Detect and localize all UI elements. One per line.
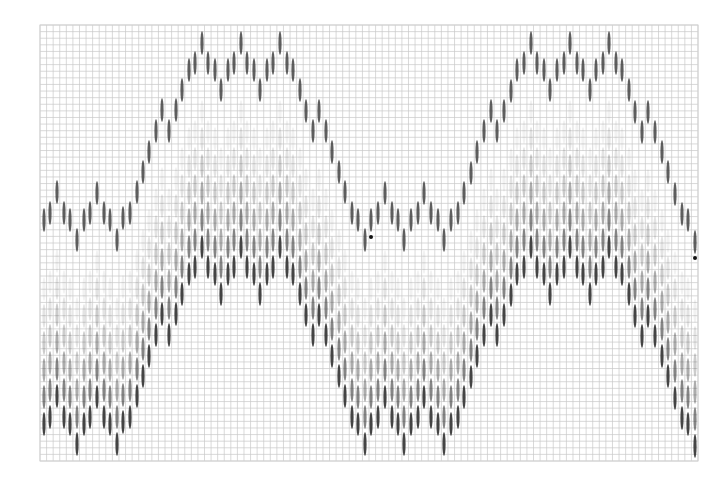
stack-ellipse <box>409 304 412 328</box>
stack-ellipse <box>469 230 472 254</box>
stack-ellipse <box>285 174 288 198</box>
series-ellipse <box>535 51 538 75</box>
stack-ellipse <box>245 255 248 279</box>
stack-ellipse <box>174 194 177 218</box>
stack-ellipse <box>55 384 58 408</box>
stack-ellipse <box>337 337 340 361</box>
stack-ellipse <box>55 303 58 327</box>
stack-ellipse <box>193 120 196 144</box>
stack-ellipse <box>416 324 419 348</box>
series-ellipse <box>226 58 229 82</box>
stack-ellipse <box>620 181 623 205</box>
stack-ellipse <box>108 412 111 436</box>
stack-ellipse <box>462 277 465 301</box>
series-ellipse <box>42 208 45 232</box>
stack-ellipse <box>304 276 307 300</box>
stack-ellipse <box>95 385 98 409</box>
stack-ellipse <box>115 378 118 402</box>
stack-ellipse <box>291 262 294 286</box>
stack-ellipse <box>75 324 78 348</box>
stack-ellipse <box>376 378 379 402</box>
stack-ellipse <box>324 269 327 293</box>
series-ellipse <box>135 180 138 204</box>
stack-ellipse <box>666 364 669 388</box>
stack-ellipse <box>369 385 372 409</box>
stack-ellipse <box>128 378 131 402</box>
stack-ellipse <box>562 147 565 171</box>
stack-ellipse <box>601 255 604 279</box>
stack-ellipse <box>193 201 196 225</box>
stack-ellipse <box>482 242 485 266</box>
stack-ellipse <box>304 195 307 219</box>
series-ellipse <box>187 58 190 82</box>
stack-ellipse <box>535 201 538 225</box>
stack-ellipse <box>416 270 419 294</box>
stack-ellipse <box>509 148 512 172</box>
stack-ellipse <box>350 405 353 429</box>
stack-ellipse <box>369 358 372 382</box>
stack-ellipse <box>646 304 649 328</box>
stack-ellipse <box>193 228 196 252</box>
stack-ellipse <box>594 127 597 151</box>
stack-ellipse <box>154 242 157 266</box>
stack-ellipse <box>174 275 177 299</box>
stack-ellipse <box>594 262 597 286</box>
stack-ellipse <box>601 174 604 198</box>
stack-ellipse <box>475 290 478 314</box>
stack-ellipse <box>317 168 320 192</box>
stack-ellipse <box>515 262 518 286</box>
stack-ellipse <box>226 262 229 286</box>
stack-ellipse <box>693 434 696 458</box>
stack-ellipse <box>121 383 124 407</box>
stack-ellipse <box>462 331 465 355</box>
stack-ellipse <box>232 147 235 171</box>
stack-ellipse <box>350 324 353 348</box>
stack-ellipse <box>298 282 301 306</box>
stack-ellipse <box>48 378 51 402</box>
stack-ellipse <box>555 208 558 232</box>
stack-ellipse <box>102 324 105 348</box>
stack-ellipse <box>383 304 386 328</box>
stack-ellipse <box>88 378 91 402</box>
stack-ellipse <box>614 228 617 252</box>
stack-ellipse <box>350 297 353 321</box>
stack-ellipse <box>141 337 144 361</box>
series-ellipse <box>102 201 105 225</box>
stack-ellipse <box>383 277 386 301</box>
stack-ellipse <box>680 325 683 349</box>
stack-ellipse <box>666 310 669 334</box>
stack-ellipse <box>82 304 85 328</box>
stack-ellipse <box>640 189 643 213</box>
stack-ellipse <box>429 405 432 429</box>
stack-ellipse <box>594 154 597 178</box>
stack-ellipse <box>206 201 209 225</box>
stack-ellipse <box>614 147 617 171</box>
stack-ellipse <box>147 263 150 287</box>
stack-ellipse <box>363 351 366 375</box>
stack-ellipse <box>298 201 301 225</box>
stack-ellipse <box>581 127 584 151</box>
stack-ellipse <box>489 303 492 327</box>
stack-ellipse <box>686 412 689 436</box>
stack-ellipse <box>141 256 144 280</box>
series-ellipse <box>489 99 492 123</box>
stack-ellipse <box>640 324 643 348</box>
stack-ellipse <box>174 167 177 191</box>
stack-ellipse <box>304 249 307 273</box>
stack-ellipse <box>350 351 353 375</box>
stack-ellipse <box>232 120 235 144</box>
stack-ellipse <box>121 356 124 380</box>
series-ellipse <box>509 79 512 103</box>
stack-ellipse <box>42 385 45 409</box>
stack-ellipse <box>82 412 85 436</box>
series-ellipse <box>311 119 314 143</box>
stack-ellipse <box>607 208 610 232</box>
stack-ellipse <box>436 412 439 436</box>
series-ellipse <box>482 119 485 143</box>
stack-ellipse <box>660 344 663 368</box>
stack-ellipse <box>42 358 45 382</box>
stack-ellipse <box>219 255 222 279</box>
stack-ellipse <box>529 127 532 151</box>
stack-ellipse <box>402 297 405 321</box>
stack-ellipse <box>535 147 538 171</box>
